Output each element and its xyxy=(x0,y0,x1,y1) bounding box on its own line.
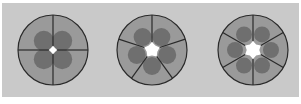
nucleus xyxy=(152,28,170,46)
cross-section-6-cells xyxy=(218,15,288,85)
nucleus xyxy=(254,58,270,74)
cell-cross-section-diagram xyxy=(0,0,301,104)
nucleus xyxy=(143,57,161,75)
nucleus xyxy=(52,31,72,51)
nucleus xyxy=(254,26,270,42)
nucleus xyxy=(34,31,54,51)
nucleus xyxy=(158,46,176,64)
nucleus xyxy=(227,42,243,58)
nucleus xyxy=(128,46,146,64)
nucleus xyxy=(52,49,72,69)
cross-section-4-cells xyxy=(18,15,88,85)
nucleus xyxy=(34,49,54,69)
cross-section-5-cells xyxy=(117,15,187,85)
nucleus xyxy=(263,42,279,58)
nucleus xyxy=(236,26,252,42)
nucleus xyxy=(134,28,152,46)
nucleus xyxy=(236,58,252,74)
